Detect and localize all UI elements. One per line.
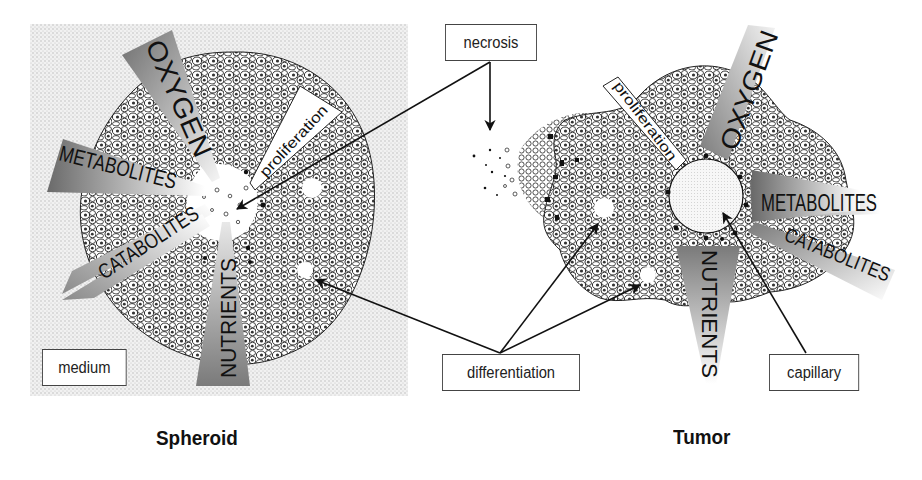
capillary-vessel <box>669 159 743 233</box>
differentiation-arrow-tumor-upper <box>500 224 598 353</box>
tumor-nutrients-label: NUTRIENTS <box>697 250 722 378</box>
differentiation-arrow-tumor-lower <box>500 285 640 353</box>
spheroid-nutrients-label: NUTRIENTS <box>216 258 241 378</box>
necrosis-label-box: necrosis <box>445 24 537 61</box>
spheroid-lumen-lower <box>297 262 313 278</box>
tumor-lumen-lower <box>640 267 656 283</box>
medium-label: medium <box>58 360 110 376</box>
spheroid-panel: OXYGEN METABOLITES CATABOLITES NUTRIENTS… <box>30 24 408 396</box>
tumor-panel: proliferation OXYGEN METABOLITES CATABOL… <box>473 25 895 384</box>
tumor-metabolites-label: METABOLITES <box>761 190 877 216</box>
capillary-label-box: capillary <box>769 354 859 391</box>
differentiation-label-box: differentiation <box>442 354 580 391</box>
spheroid-lumen-upper <box>302 178 322 198</box>
tumor-lumen-upper <box>594 198 614 218</box>
spheroid-caption: Spheroid <box>156 426 238 450</box>
tumor-caption: Tumor <box>673 425 730 449</box>
capillary-label: capillary <box>787 365 841 381</box>
differentiation-label: differentiation <box>467 365 555 381</box>
necrosis-label: necrosis <box>464 35 519 51</box>
tumor-necrotic-debris <box>473 149 507 196</box>
spheroid-vs-tumor-diagram: OXYGEN METABOLITES CATABOLITES NUTRIENTS… <box>0 0 922 480</box>
tumor-nutrients-wedge: NUTRIENTS <box>676 246 740 384</box>
diagram-canvas: OXYGEN METABOLITES CATABOLITES NUTRIENTS… <box>0 0 922 480</box>
medium-label-box: medium <box>42 349 127 386</box>
